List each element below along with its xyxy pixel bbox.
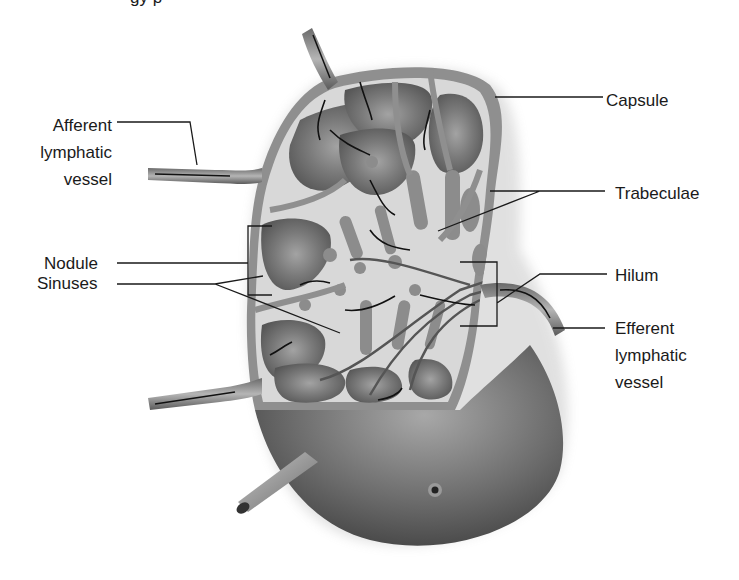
afferent-vessel-left-lower	[148, 378, 262, 410]
afferent-vessel-left-upper	[148, 168, 262, 184]
afferent-label-line3: vessel	[20, 166, 112, 193]
efferent-vessel-label: Efferent lymphatic vessel	[615, 315, 687, 396]
afferent-leader	[117, 122, 197, 165]
trabeculae-label: Trabeculae	[615, 180, 699, 207]
afferent-vessel-label: Afferent lymphatic vessel	[20, 112, 112, 193]
exterior-opening	[428, 483, 442, 497]
efferent-label-line2: lymphatic	[615, 342, 687, 369]
efferent-label-line1: Efferent	[615, 315, 687, 342]
hilum-label: Hilum	[615, 262, 658, 289]
sinuses-label: Sinuses	[37, 270, 97, 297]
efferent-label-line3: vessel	[615, 369, 687, 396]
capsule-label: Capsule	[606, 87, 668, 114]
afferent-vessel-top	[302, 28, 338, 90]
afferent-label-line1: Afferent	[20, 112, 112, 139]
afferent-label-line2: lymphatic	[20, 139, 112, 166]
